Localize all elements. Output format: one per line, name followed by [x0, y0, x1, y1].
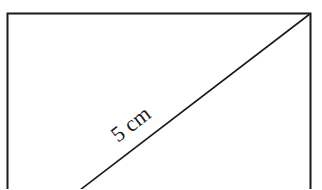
diagonal-line [80, 14, 311, 190]
rectangle-outline [8, 14, 311, 190]
rectangle-diagram: 5 cm [0, 0, 322, 189]
diagonal-length-label: 5 cm [106, 101, 156, 147]
